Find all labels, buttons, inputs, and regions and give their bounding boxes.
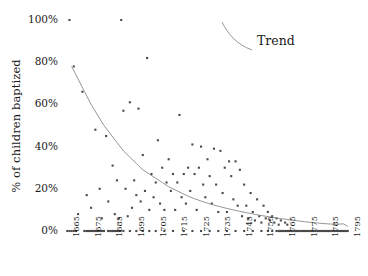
data-point — [155, 230, 157, 232]
data-point — [187, 167, 189, 169]
data-point — [170, 190, 172, 192]
x-axis-tick-label: 1735 — [222, 216, 232, 237]
x-axis-tick-label: 1715 — [179, 216, 189, 237]
data-point — [241, 215, 243, 217]
data-point — [107, 230, 109, 232]
data-point — [73, 65, 75, 67]
data-point — [217, 211, 219, 213]
data-point — [144, 190, 146, 192]
data-point — [81, 91, 83, 93]
data-point — [191, 143, 193, 145]
data-point — [191, 230, 193, 232]
data-point — [322, 230, 324, 232]
data-point — [129, 101, 131, 103]
y-axis-tick-label: 0% — [41, 224, 58, 236]
y-axis-tick-label: 80% — [35, 55, 58, 67]
data-point — [215, 184, 217, 186]
data-point — [181, 196, 183, 198]
data-point — [219, 150, 221, 152]
data-point — [103, 230, 105, 232]
data-point — [90, 207, 92, 209]
y-axis-tick-label: 100% — [28, 13, 58, 25]
data-point — [252, 211, 254, 213]
data-point — [142, 154, 144, 156]
data-point — [202, 184, 204, 186]
data-point — [133, 179, 135, 181]
x-axis-tick-label: 1665 — [71, 216, 81, 237]
data-point — [165, 181, 167, 183]
data-point — [131, 207, 133, 209]
x-axis-tick-label: 1695 — [136, 216, 146, 237]
data-point — [86, 194, 88, 196]
data-point — [159, 203, 161, 205]
data-point — [243, 184, 245, 186]
data-point — [319, 230, 321, 232]
data-point — [194, 173, 196, 175]
data-point — [99, 188, 101, 190]
data-point — [140, 200, 142, 202]
data-point — [174, 209, 176, 211]
data-point — [245, 205, 247, 207]
data-point — [341, 230, 343, 232]
x-axis-tick-label: 1725 — [201, 216, 211, 237]
data-point — [232, 198, 234, 200]
data-point — [278, 230, 280, 232]
scatter-markers-group — [66, 19, 348, 232]
data-point — [157, 139, 159, 141]
data-point — [278, 224, 280, 226]
data-point — [137, 108, 139, 110]
data-point — [112, 165, 114, 167]
data-point — [176, 181, 178, 183]
data-point — [280, 219, 282, 221]
data-point — [237, 205, 239, 207]
data-point — [324, 230, 326, 232]
x-axis-tick-label: 1745 — [244, 216, 254, 237]
data-point — [305, 230, 307, 232]
data-point — [209, 175, 211, 177]
x-axis-tick-label: 1675 — [93, 216, 103, 237]
data-point — [148, 230, 150, 232]
x-axis-tick-label: 1705 — [158, 216, 168, 237]
data-point — [239, 169, 241, 171]
legend-label-trend: Trend — [257, 33, 295, 48]
data-point — [256, 198, 258, 200]
data-point — [94, 129, 96, 131]
x-axis-tick-label: 1775 — [309, 216, 319, 237]
data-point — [120, 19, 122, 21]
trend-curve-glyph — [222, 22, 252, 50]
data-point — [250, 192, 252, 194]
data-point — [105, 135, 107, 137]
data-point — [114, 213, 116, 215]
y-axis-title: % of children baptized — [9, 59, 23, 193]
y-axis-tick-label: 60% — [35, 97, 58, 109]
data-point — [228, 160, 230, 162]
data-point — [284, 222, 286, 224]
data-point — [185, 203, 187, 205]
data-point — [213, 148, 215, 150]
data-point — [200, 146, 202, 148]
x-axis-tick-label: 1755 — [265, 216, 275, 237]
data-point — [88, 230, 90, 232]
y-axis-tick-label: 20% — [35, 182, 58, 194]
data-point — [110, 230, 112, 232]
data-point — [178, 114, 180, 116]
x-axis-tick-label: 1765 — [287, 216, 297, 237]
data-point — [234, 160, 236, 162]
data-point — [226, 211, 228, 213]
chart-figure: % of children baptized 0%20%40%60%80%100… — [0, 0, 368, 276]
data-point — [344, 230, 346, 232]
data-point — [127, 215, 129, 217]
data-point — [146, 57, 148, 59]
data-point — [124, 188, 126, 190]
data-point — [206, 158, 208, 160]
trend-curve — [72, 66, 348, 226]
data-point — [161, 167, 163, 169]
data-point — [346, 230, 348, 232]
data-point — [300, 230, 302, 232]
data-point — [172, 230, 174, 232]
data-point — [297, 230, 299, 232]
data-point — [84, 230, 86, 232]
data-point — [196, 209, 198, 211]
x-axis-tick-label: 1785 — [330, 216, 340, 237]
y-axis-tick-label: 40% — [35, 140, 58, 152]
